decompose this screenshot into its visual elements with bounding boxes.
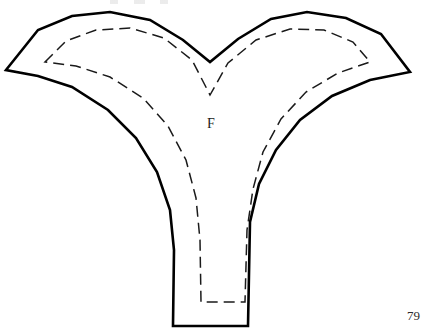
cutting-line-path (6, 12, 410, 326)
pattern-drawing (0, 0, 429, 330)
pattern-page: F 79 (0, 0, 429, 330)
page-number: 79 (407, 309, 420, 322)
pattern-piece-label: F (207, 117, 215, 131)
